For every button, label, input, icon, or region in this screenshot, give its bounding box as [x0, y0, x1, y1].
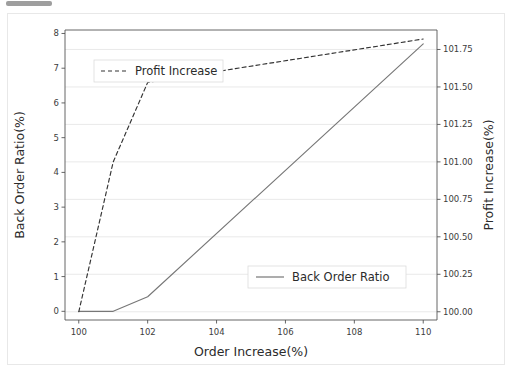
chart-canvas: 100102104106108110 012345678 100.00100.2… — [0, 0, 519, 380]
y-right-tick-label: 101.75 — [443, 44, 473, 54]
y-left-tick-label: 2 — [54, 237, 59, 247]
x-tick-label: 106 — [277, 327, 293, 337]
x-tick-label: 110 — [415, 327, 431, 337]
y-right-tick-label: 100.25 — [443, 269, 473, 279]
y-left-tick-label: 4 — [54, 167, 59, 177]
y-right-tick-label: 100.00 — [443, 307, 473, 317]
x-tick-label: 102 — [140, 327, 156, 337]
legend-profit-increase-label: Profit Increase — [135, 64, 217, 78]
y-right-tick-label: 101.50 — [443, 82, 473, 92]
x-tick-label: 108 — [346, 327, 362, 337]
x-tick-label: 104 — [208, 327, 224, 337]
y-left-tick-label: 7 — [54, 63, 59, 73]
x-axis-label: Order Increase(%) — [194, 344, 308, 359]
x-axis-ticks: 100102104106108110 — [71, 320, 432, 337]
y-right-tick-label: 100.50 — [443, 232, 473, 242]
y-left-tick-label: 5 — [54, 133, 59, 143]
legend-profit-increase[interactable]: Profit Increase — [94, 60, 223, 82]
y-left-tick-label: 8 — [54, 28, 59, 38]
legend-back-order-ratio-label: Back Order Ratio — [292, 270, 389, 284]
y-axis-left-label: Back Order Ratio(%) — [12, 111, 27, 239]
y-left-tick-label: 3 — [54, 202, 59, 212]
y-left-tick-label: 0 — [54, 306, 59, 316]
y-left-tick-label: 1 — [54, 272, 59, 282]
y-right-tick-label: 101.00 — [443, 157, 473, 167]
y-axis-right-label: Profit Increase(%) — [481, 119, 496, 230]
x-tick-label: 100 — [71, 327, 87, 337]
y-left-tick-label: 6 — [54, 98, 59, 108]
y-right-tick-label: 100.75 — [443, 194, 473, 204]
y-right-tick-label: 101.25 — [443, 119, 473, 129]
y-axis-left-ticks: 012345678 — [54, 28, 65, 316]
y-axis-right-ticks: 100.00100.25100.50100.75101.00101.25101.… — [437, 44, 473, 316]
chart-figure: 100102104106108110 012345678 100.00100.2… — [0, 0, 519, 380]
legend-back-order-ratio[interactable]: Back Order Ratio — [248, 266, 406, 288]
